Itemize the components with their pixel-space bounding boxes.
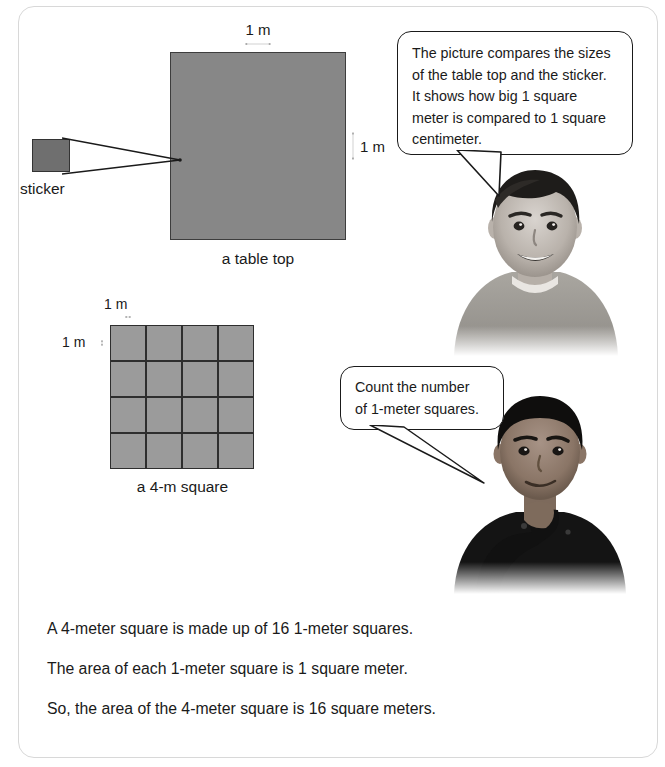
speech-bubble-1-tail — [455, 150, 515, 200]
summary-line-3: So, the area of the 4-meter square is 16… — [47, 700, 607, 718]
grid-caption: a 4-m square — [95, 478, 270, 496]
grid-cell-height-arrow — [101, 325, 103, 361]
grid-cell — [111, 362, 145, 396]
grid-cell — [111, 326, 145, 360]
grid-cell — [111, 434, 145, 468]
grid-cell — [111, 398, 145, 432]
grid-cell-width-label: 1 m — [104, 296, 127, 312]
grid-cell — [219, 398, 253, 432]
grid-cell — [147, 434, 181, 468]
grid-cell — [147, 362, 181, 396]
speech-bubble-2-tail — [360, 425, 500, 485]
table-top-height-label: 1 m — [360, 138, 385, 155]
grid-cell — [147, 326, 181, 360]
grid-cell — [219, 362, 253, 396]
speech-bubble-1: The picture compares the sizes of the ta… — [397, 31, 633, 155]
summary-line-1: A 4-meter square is made up of 16 1-mete… — [47, 620, 607, 638]
sticker-caption: sticker — [20, 180, 65, 198]
table-top-width-arrow — [170, 43, 346, 45]
grid-cell — [219, 434, 253, 468]
table-top-square — [170, 52, 346, 240]
speech-bubble-2: Count the number of 1-meter squares. — [340, 366, 504, 430]
grid-cell — [147, 398, 181, 432]
four-meter-square-grid — [110, 325, 254, 469]
summary-text-block: A 4-meter square is made up of 16 1-mete… — [47, 620, 607, 740]
table-top-width-label: 1 m — [170, 21, 346, 38]
magnification-lines-icon — [62, 132, 182, 188]
speech-bubble-1-text: The picture compares the sizes of the ta… — [412, 43, 620, 151]
speech-bubble-2-text: Count the number of 1-meter squares. — [355, 377, 493, 420]
grid-cell — [183, 398, 217, 432]
grid-cell-width-arrow — [110, 316, 146, 318]
grid-cell — [219, 326, 253, 360]
grid-cell — [183, 362, 217, 396]
table-top-height-arrow — [352, 52, 354, 240]
grid-cell-height-label: 1 m — [62, 334, 85, 350]
worksheet-page: 1 m 1 m a table top sticker 1 m 1 m — [0, 0, 665, 767]
grid-cell — [183, 434, 217, 468]
table-top-caption: a table top — [170, 250, 346, 268]
summary-line-2: The area of each 1-meter square is 1 squ… — [47, 660, 607, 678]
grid-cell — [183, 326, 217, 360]
